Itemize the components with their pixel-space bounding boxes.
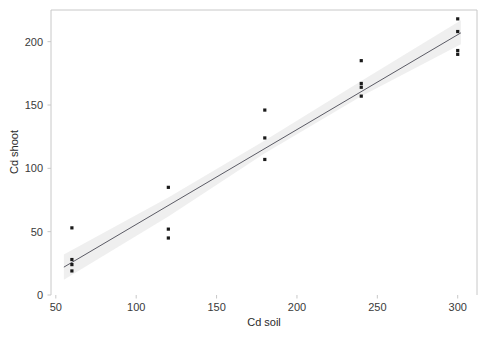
data-point bbox=[360, 86, 363, 89]
data-point bbox=[360, 59, 363, 62]
y-tick-label: 0 bbox=[37, 289, 43, 301]
data-point bbox=[456, 53, 459, 56]
data-point bbox=[70, 226, 73, 229]
data-point bbox=[263, 136, 266, 139]
y-axis-label: Cd shoot bbox=[8, 130, 20, 174]
data-point bbox=[456, 49, 459, 52]
y-tick-label: 100 bbox=[25, 162, 43, 174]
x-tick-label: 50 bbox=[50, 301, 62, 313]
data-point bbox=[70, 263, 73, 266]
y-tick-label: 150 bbox=[25, 99, 43, 111]
x-tick-label: 100 bbox=[127, 301, 145, 313]
scatter-plot-figure: 50100150200250300 050100150200 Cd soil C… bbox=[0, 0, 494, 338]
data-point bbox=[456, 30, 459, 33]
data-point bbox=[360, 82, 363, 85]
x-tick-label: 300 bbox=[449, 301, 467, 313]
x-tick-label: 150 bbox=[207, 301, 225, 313]
data-point bbox=[456, 17, 459, 20]
y-tick-label: 200 bbox=[25, 36, 43, 48]
data-point bbox=[167, 228, 170, 231]
data-point bbox=[263, 108, 266, 111]
data-point bbox=[70, 258, 73, 261]
plot-canvas: 50100150200250300 050100150200 Cd soil C… bbox=[0, 0, 494, 338]
x-tick-label: 200 bbox=[288, 301, 306, 313]
y-tick-label: 50 bbox=[31, 226, 43, 238]
x-tick-label: 250 bbox=[368, 301, 386, 313]
x-axis-label: Cd soil bbox=[247, 316, 281, 328]
data-point bbox=[70, 269, 73, 272]
data-point bbox=[360, 95, 363, 98]
data-point bbox=[167, 186, 170, 189]
data-point bbox=[263, 158, 266, 161]
data-point bbox=[167, 236, 170, 239]
